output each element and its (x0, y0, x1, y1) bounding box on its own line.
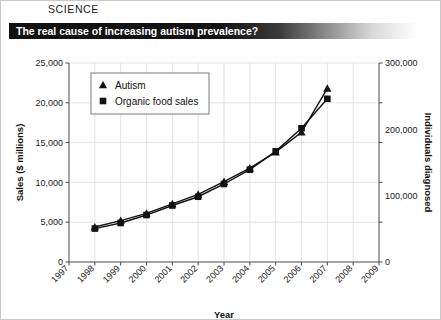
y-tick-label: 5,000 (40, 217, 63, 227)
legend: AutismOrganic food sales (91, 73, 209, 114)
series-line (95, 99, 328, 229)
x-axis-tick-labels: 1997199819992000200120022003200420052006… (49, 263, 380, 284)
y-tick-label: 20,000 (35, 98, 63, 108)
y2-tick-label: 100,000 (385, 191, 418, 201)
x-tick-label: 2007 (308, 263, 329, 284)
x-tick-label: 2001 (153, 263, 174, 284)
chart-area: 05,00010,00015,00020,00025,000 0100,0002… (1, 45, 441, 320)
data-point-marker (272, 148, 279, 155)
x-tick-label: 1997 (49, 263, 70, 284)
legend-box (91, 73, 209, 114)
data-point-marker (195, 193, 202, 200)
x-tick-label: 1999 (101, 263, 122, 284)
y2-tick-label: 0 (385, 257, 390, 267)
x-tick-label: 2003 (204, 263, 225, 284)
y-tick-label: 15,000 (35, 138, 63, 148)
data-point-marker (169, 202, 176, 209)
x-tick-label: 2006 (282, 263, 303, 284)
x-tick-label: 2005 (256, 263, 277, 284)
headline-bar: The real cause of increasing autism prev… (9, 23, 417, 39)
data-point-marker (143, 212, 150, 219)
y-axis-tick-labels: 05,00010,00015,00020,00025,000 (35, 58, 63, 267)
data-point-marker (100, 98, 107, 105)
figure-frame: SCIENCE The real cause of increasing aut… (0, 0, 441, 320)
y2-tick-label: 300,000 (385, 58, 418, 68)
data-point-marker (117, 220, 124, 227)
y2-axis-tick-labels: 0100,000200,000300,000 (385, 58, 418, 267)
line-chart: 05,00010,00015,00020,00025,000 0100,0002… (1, 45, 441, 320)
y2-axis-title: Individuals diagnosed (423, 113, 434, 213)
x-axis-title: Year (214, 309, 234, 320)
x-tick-label: 2004 (230, 263, 251, 284)
y-tick-label: 25,000 (35, 58, 63, 68)
y-tick-label: 10,000 (35, 178, 63, 188)
legend-label: Organic food sales (115, 96, 198, 107)
data-point-marker (324, 96, 331, 103)
y-axis-title: Sales ($ millions) (14, 124, 25, 202)
x-tick-label: 1998 (75, 263, 96, 284)
data-point-marker (221, 181, 228, 188)
data-point-marker (92, 225, 99, 232)
y2-tick-label: 200,000 (385, 125, 418, 135)
legend-label: Autism (115, 80, 146, 91)
data-point-marker (298, 125, 305, 132)
x-tick-label: 2008 (333, 263, 354, 284)
data-point-marker (323, 84, 331, 91)
data-point-marker (247, 166, 254, 173)
x-tick-label: 2009 (359, 263, 380, 284)
x-tick-label: 2002 (178, 263, 199, 284)
section-label: SCIENCE (48, 3, 99, 15)
x-tick-label: 2000 (127, 263, 148, 284)
headline-text: The real cause of increasing autism prev… (16, 25, 258, 37)
